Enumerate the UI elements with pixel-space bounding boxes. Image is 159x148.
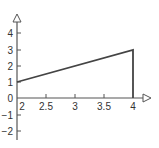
x-tick-label: 3.5 bbox=[97, 101, 111, 112]
y-tick-label: 3 bbox=[7, 45, 13, 56]
data-line bbox=[17, 50, 133, 98]
y-tick-label: 2 bbox=[7, 61, 13, 72]
x-tick-label: 2.5 bbox=[39, 101, 53, 112]
chart: 4 3 2 1 0 −1 −2 2 2.5 3 3.5 4 bbox=[0, 0, 159, 148]
y-axis-arrow-icon bbox=[13, 14, 21, 22]
y-tick-label: −2 bbox=[2, 126, 14, 137]
y-tick-label: −1 bbox=[2, 110, 14, 121]
x-tick-label: 4 bbox=[130, 101, 136, 112]
x-axis-arrow-icon bbox=[143, 94, 151, 102]
y-tick-label: 0 bbox=[7, 93, 13, 104]
x-tick-label: 3 bbox=[72, 101, 78, 112]
x-tick-label: 2 bbox=[19, 101, 25, 112]
y-tick-label: 1 bbox=[7, 77, 13, 88]
y-tick-label: 4 bbox=[7, 28, 13, 39]
